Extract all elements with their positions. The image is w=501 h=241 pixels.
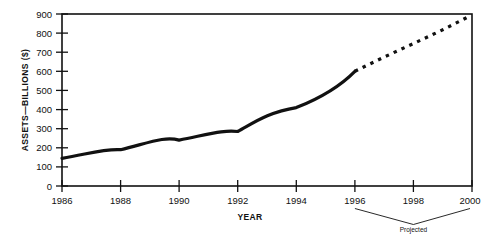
y-tick-label-900: 900 <box>36 9 52 20</box>
x-tick-label-1990: 1990 <box>169 195 190 206</box>
projected-bracket <box>355 209 470 225</box>
plot-frame <box>62 14 472 186</box>
x-tick-label-1998: 1998 <box>403 195 424 206</box>
x-tick-label-1986: 1986 <box>51 195 72 206</box>
y-tick-label-0: 0 <box>47 181 52 192</box>
y-tick-label-100: 100 <box>36 161 52 172</box>
data-line-actual <box>62 71 355 158</box>
x-axis-title: YEAR <box>237 212 262 222</box>
y-tick-label-400: 400 <box>36 104 52 115</box>
projected-label: Projected <box>400 226 428 234</box>
x-tick-label-1994: 1994 <box>286 195 307 206</box>
x-tick-label-2000: 2000 <box>459 195 480 206</box>
x-tick-label-1992: 1992 <box>227 195 248 206</box>
y-tick-label-700: 700 <box>36 47 52 58</box>
y-tick-label-300: 300 <box>36 123 52 134</box>
y-axis-title: ASSETS—BILLIONS ($) <box>20 49 30 152</box>
y-tick-label-800: 800 <box>36 28 52 39</box>
y-tick-label-200: 200 <box>36 142 52 153</box>
chart-container: 900 800 700 600 500 400 300 200 100 0 19… <box>0 0 501 241</box>
y-tick-label-600: 600 <box>36 66 52 77</box>
data-line-projected <box>355 16 470 71</box>
x-tick-label-1988: 1988 <box>110 195 131 206</box>
x-tick-label-1996: 1996 <box>344 195 365 206</box>
y-tick-label-500: 500 <box>36 85 52 96</box>
assets-line-chart: 900 800 700 600 500 400 300 200 100 0 19… <box>0 0 501 241</box>
